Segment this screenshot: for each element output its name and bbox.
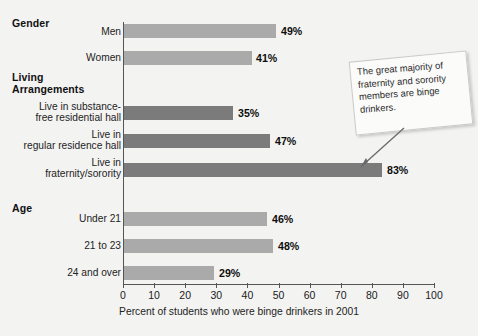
x-tick-20 [185,283,186,288]
bar-value-women: 41% [256,52,277,64]
group-header-living-arrangements: Living Arrangements [12,72,84,95]
x-tick-label-0: 0 [120,289,126,301]
category-label-men: Men [101,26,121,37]
bar-value-regular-residence-hall: 47% [275,135,296,147]
x-tick-label-80: 80 [366,289,378,301]
x-tick-label-30: 30 [210,289,222,301]
group-header-age: Age [12,203,32,215]
x-tick-label-90: 90 [397,289,409,301]
category-label-fraternity-sorority: Live in fraternity/sorority [45,157,121,180]
x-axis-title: Percent of students who were binge drink… [0,306,478,317]
bar-regular-residence-hall [124,134,270,148]
bar-substance-free-hall [124,106,233,120]
bar-value-substance-free-hall: 35% [238,107,259,119]
x-tick-10 [154,283,155,288]
bar-value-21-to-23: 48% [278,240,299,252]
category-label-21-to-23: 21 to 23 [84,240,121,251]
x-tick-label-40: 40 [242,289,254,301]
x-tick-70 [341,283,342,288]
x-tick-label-20: 20 [179,289,191,301]
category-label-women: Women [86,52,121,63]
x-tick-100 [434,283,435,288]
x-tick-label-10: 10 [148,289,160,301]
x-tick-label-50: 50 [273,289,285,301]
annotation-callout-text: The great majority of fraternity and sor… [357,58,465,116]
binge-drinking-bar-chart: Gender Living Arrangements Age Men Women… [0,0,478,336]
bar-fraternity-sorority [124,163,382,177]
x-tick-60 [310,283,311,288]
x-tick-label-70: 70 [335,289,347,301]
x-tick-label-60: 60 [304,289,316,301]
annotation-arrow-icon [352,124,408,172]
bar-under-21 [124,212,267,226]
annotation-callout: The great majority of fraternity and sor… [349,51,474,136]
x-tick-label-100: 100 [425,289,443,301]
group-header-gender: Gender [12,18,49,30]
bar-men [124,24,276,38]
bar-21-to-23 [124,239,273,253]
x-tick-30 [216,283,217,288]
bar-value-under-21: 46% [272,213,293,225]
x-tick-90 [403,283,404,288]
bar-women [124,51,252,65]
x-tick-80 [372,283,373,288]
bar-24-and-over [124,266,214,280]
category-label-under-21: Under 21 [79,213,121,224]
bar-value-men: 49% [281,25,302,37]
category-label-regular-residence-hall: Live in regular residence hall [24,129,121,152]
category-label-24-and-over: 24 and over [67,267,121,278]
x-tick-50 [279,283,280,288]
category-label-substance-free-hall: Live in substance- free residential hall [35,101,121,124]
bar-value-24-and-over: 29% [219,267,240,279]
x-tick-0 [123,283,124,288]
x-tick-40 [247,283,248,288]
